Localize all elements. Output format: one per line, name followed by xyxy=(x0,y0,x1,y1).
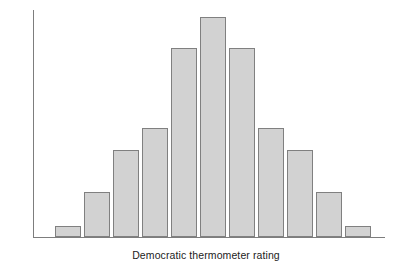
bar xyxy=(287,150,313,237)
bar xyxy=(142,128,168,237)
bar xyxy=(345,226,371,237)
bar xyxy=(171,48,197,237)
bar xyxy=(84,192,110,237)
bar xyxy=(258,128,284,237)
bar xyxy=(55,226,81,237)
x-axis-label: Democratic thermometer rating xyxy=(0,248,412,262)
plot-area xyxy=(0,0,412,248)
bar xyxy=(229,48,255,237)
bar xyxy=(316,192,342,237)
bar-series xyxy=(0,0,412,248)
histogram-figure: Democratic thermometer rating xyxy=(0,0,412,276)
bar xyxy=(113,150,139,237)
bar xyxy=(200,17,226,237)
